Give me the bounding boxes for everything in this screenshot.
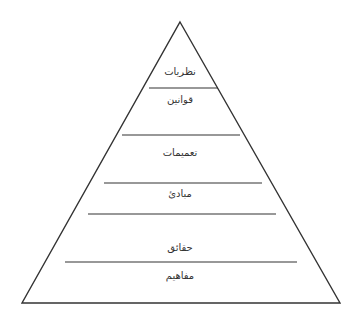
level-label-generalizations: تعميمات [163, 148, 198, 158]
level-label-concepts: مفاهيم [166, 271, 194, 281]
level-label-theories: نظريات [164, 67, 196, 77]
level-label-facts: حقائق [167, 243, 192, 253]
level-label-principles: مبادئ [168, 189, 192, 199]
level-label-laws: قوانين [167, 95, 193, 105]
pyramid-outline [22, 22, 340, 303]
